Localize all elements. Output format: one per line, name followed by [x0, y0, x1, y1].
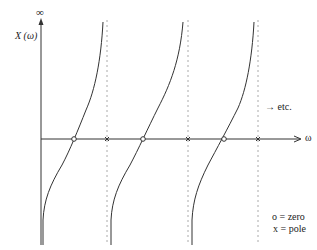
- legend-pole: x = pole: [273, 224, 306, 234]
- reactance-curves: [43, 22, 254, 245]
- zero-icon: [222, 137, 227, 142]
- x-axis-label: ω: [305, 133, 312, 143]
- zero-icon: [72, 137, 77, 142]
- continuation-label: → etc.: [265, 102, 292, 112]
- zero-icon: [141, 137, 146, 142]
- pole-asymptotes: [107, 20, 258, 245]
- curve-branch-2: [111, 22, 183, 245]
- infinity-label: ∞: [36, 7, 44, 18]
- legend-zero: o = zero: [272, 212, 305, 222]
- x-axis: [41, 136, 301, 142]
- y-axis-arrow-icon: [39, 18, 44, 25]
- y-axis-label: X (ω): [15, 31, 37, 41]
- curve-branch-3: [192, 22, 254, 245]
- curve-branch-1: [43, 22, 103, 245]
- reactance-plot: [0, 0, 317, 250]
- y-axis: [39, 18, 44, 245]
